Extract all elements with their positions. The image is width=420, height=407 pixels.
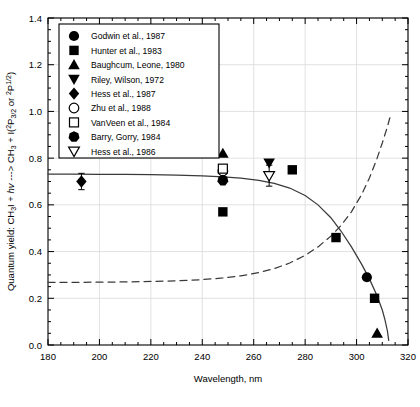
legend-label: Hunter et al., 1983 bbox=[91, 46, 162, 56]
marker-filled-diamond bbox=[76, 175, 86, 187]
legend-label: Zhu et al., 1988 bbox=[91, 103, 151, 113]
x-tick-label: 180 bbox=[40, 351, 56, 362]
marker-open-circle bbox=[69, 103, 79, 113]
x-tick-label: 220 bbox=[143, 351, 159, 362]
marker-open-square bbox=[70, 118, 79, 127]
legend-label: Riley, Wilson, 1972 bbox=[91, 75, 164, 85]
series-2 bbox=[218, 165, 379, 303]
y-tick-label: 1.4 bbox=[29, 13, 42, 24]
y-tick-label: 0.6 bbox=[29, 199, 42, 210]
marker-filled-square bbox=[288, 165, 297, 174]
x-tick-label: 260 bbox=[246, 351, 262, 362]
legend-label: Hess et al., 1986 bbox=[91, 147, 156, 157]
y-tick-label: 0.0 bbox=[29, 340, 42, 351]
marker-filled-square bbox=[331, 233, 340, 242]
y-tick-label: 1.0 bbox=[29, 106, 42, 117]
marker-filled-up-triangle bbox=[371, 328, 383, 338]
series-5 bbox=[76, 173, 86, 189]
x-tick-label: 300 bbox=[349, 351, 365, 362]
y-tick-label: 0.2 bbox=[29, 293, 42, 304]
y-tick-label: 0.4 bbox=[29, 246, 42, 257]
series-7 bbox=[218, 164, 227, 173]
y-axis-title: Quantum yield: CH3I + hv ---> CH3 + I(2P… bbox=[5, 72, 17, 291]
x-tick-label: 320 bbox=[400, 351, 416, 362]
marker-filled-square bbox=[370, 294, 379, 303]
y-tick-label: 0.8 bbox=[29, 153, 42, 164]
marker-filled-circle bbox=[69, 31, 79, 41]
marker-open-square bbox=[218, 164, 227, 173]
x-axis-title: Wavelength, nm bbox=[194, 373, 262, 384]
chart-figure: 1802002202402602803003200.00.20.40.60.81… bbox=[0, 0, 420, 407]
marker-filled-circle bbox=[362, 272, 372, 282]
data-markers bbox=[76, 148, 383, 338]
x-tick-label: 200 bbox=[91, 351, 107, 362]
legend-label: Hess et al., 1987 bbox=[91, 89, 156, 99]
y-tick-label: 1.2 bbox=[29, 59, 42, 70]
series-3 bbox=[217, 148, 383, 338]
legend-label: VanVeen et al., 1984 bbox=[91, 118, 170, 128]
marker-filled-square bbox=[218, 207, 227, 216]
legend-label: Godwin et al., 1987 bbox=[91, 31, 165, 41]
quantum-yield-scatter-chart: 1802002202402602803003200.00.20.40.60.81… bbox=[0, 0, 420, 407]
x-tick-label: 280 bbox=[297, 351, 313, 362]
legend-label: Barry, Gorry, 1984 bbox=[91, 132, 161, 142]
series-1 bbox=[362, 272, 372, 282]
marker-open-down-triangle bbox=[264, 172, 275, 182]
marker-filled-square bbox=[69, 46, 78, 55]
legend-label: Baughcum, Leone, 1980 bbox=[91, 60, 185, 70]
x-tick-label: 240 bbox=[194, 351, 210, 362]
legend: Godwin et al., 1987Hunter et al., 1983Ba… bbox=[59, 24, 219, 158]
